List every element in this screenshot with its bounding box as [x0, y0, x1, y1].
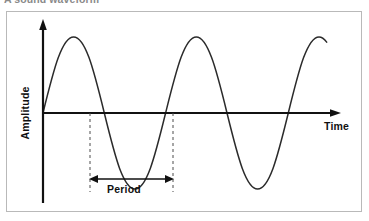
x-axis-arrowhead — [330, 109, 341, 117]
period-annotation-label: Period — [107, 183, 141, 195]
waveform-figure: A sound waveform Amplitude Time Period — [0, 0, 369, 221]
x-axis-label: Time — [324, 120, 349, 132]
y-axis-arrowhead — [39, 19, 47, 30]
y-axis-label: Amplitude — [19, 75, 31, 151]
waveform-plot — [0, 0, 369, 221]
